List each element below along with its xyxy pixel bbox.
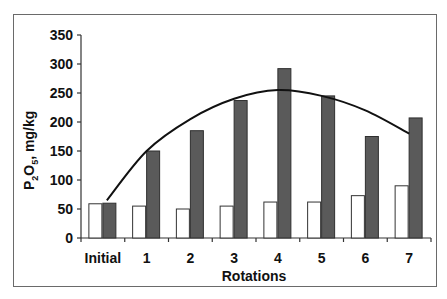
bar-white (89, 204, 102, 238)
x-tick-label: 2 (186, 250, 194, 266)
bar-dark (322, 96, 335, 238)
y-axis: 050100150200250300350 (50, 27, 81, 246)
y-tick-label: 350 (50, 27, 74, 43)
bar-white (220, 206, 233, 238)
x-tick-label: Initial (85, 250, 122, 266)
x-axis: Initial1234567 (81, 238, 431, 266)
bar-dark (365, 137, 378, 239)
x-tick-label: 1 (143, 250, 151, 266)
y-tick-label: 200 (50, 114, 74, 130)
y-tick-label: 250 (50, 85, 74, 101)
x-tick-label: 7 (405, 250, 413, 266)
bar-dark (234, 101, 247, 238)
y-axis-title: P2O5, mg/kg (21, 111, 40, 190)
bar-white (395, 186, 408, 238)
x-tick-label: 3 (230, 250, 238, 266)
bar-chart: 050100150200250300350 Initial1234567 P2O… (0, 0, 447, 299)
y-tick-label: 300 (50, 56, 74, 72)
y-tick-label: 50 (57, 201, 73, 217)
y-tick-label: 100 (50, 172, 74, 188)
y-tick-label: 0 (65, 230, 73, 246)
bars (89, 69, 422, 238)
x-tick-label: 4 (274, 250, 282, 266)
bar-white (351, 196, 364, 238)
bar-dark (103, 203, 116, 238)
bar-white (133, 206, 146, 238)
bar-dark (409, 118, 422, 238)
x-axis-title: Rotations (222, 268, 287, 284)
bar-dark (190, 131, 203, 238)
bar-white (308, 202, 321, 238)
bar-white (176, 209, 189, 238)
y-tick-label: 150 (50, 143, 74, 159)
x-tick-label: 6 (361, 250, 369, 266)
bar-dark (278, 69, 291, 238)
bar-dark (147, 151, 160, 238)
x-tick-label: 5 (318, 250, 326, 266)
bar-white (264, 202, 277, 238)
